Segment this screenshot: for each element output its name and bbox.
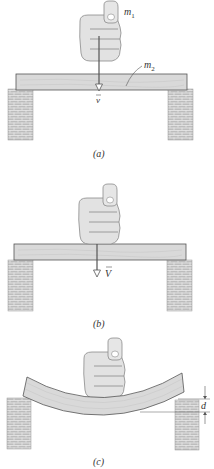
plank (16, 74, 187, 90)
left-brick-support (7, 398, 31, 449)
right-brick-support (167, 260, 192, 311)
velocity-label: v (96, 95, 100, 105)
panel-a: v m1 m2 (a) (8, 1, 193, 160)
m1-label: m1 (124, 6, 135, 20)
right-brick-support (175, 400, 199, 450)
panel-c: d (c) (7, 338, 210, 468)
left-brick-support (8, 89, 33, 140)
fist-icon (84, 338, 125, 398)
caption-c: (c) (93, 456, 105, 468)
panel-b: V (b) (8, 184, 192, 330)
caption-a: (a) (93, 148, 105, 160)
m2-label: m2 (144, 59, 155, 73)
deflection-label: d (201, 400, 207, 411)
caption-b: (b) (93, 318, 105, 330)
velocity-label: V (105, 268, 113, 279)
collision-diagram: v m1 m2 (a) V (b) d (c (0, 0, 214, 469)
right-brick-support (168, 89, 193, 140)
fist-icon (80, 1, 121, 61)
fist-icon (79, 184, 120, 244)
plank (14, 244, 186, 260)
left-brick-support (8, 260, 33, 311)
